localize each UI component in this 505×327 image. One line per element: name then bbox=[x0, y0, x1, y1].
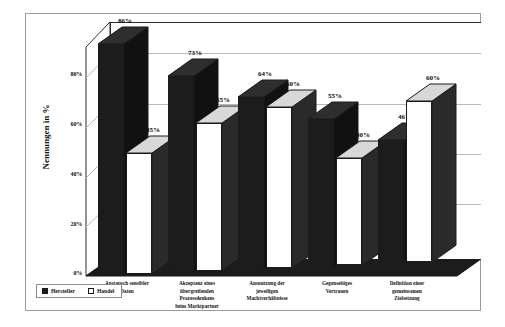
category-label-line: Machtverhältnisse bbox=[230, 295, 304, 303]
bar-value-label-1-hersteller: 86% bbox=[100, 17, 150, 25]
category-label-line: beim Marktpartner bbox=[160, 303, 234, 311]
bar-4-hersteller bbox=[308, 119, 334, 267]
legend-swatch-icon-handel bbox=[88, 288, 94, 294]
category-label-5: Definition einergemeinsamenZielsetzung bbox=[370, 280, 444, 303]
category-label-line: Ausnutzung der bbox=[230, 280, 304, 288]
bar-3d-faces bbox=[406, 84, 458, 264]
chart-screenshot: 80% 60% 40% 20% 0% Nennungen in % 86%45%… bbox=[0, 0, 505, 327]
bar-3-hersteller bbox=[238, 97, 264, 269]
bar-5-hersteller bbox=[378, 140, 404, 264]
legend-swatch-icon-hersteller bbox=[42, 288, 48, 294]
bar-value-label-3-handel: 60% bbox=[268, 80, 318, 88]
chart-legend: Hersteller Handel bbox=[36, 284, 122, 298]
category-label-4: GegenseitigesVertrauen bbox=[300, 280, 374, 295]
bar-value-label-4-hersteller: 55% bbox=[310, 92, 360, 100]
category-label-line: Definition einer bbox=[370, 280, 444, 288]
bar-3-handel bbox=[266, 107, 292, 268]
bar-value-label-2-hersteller: 73% bbox=[170, 49, 220, 57]
bar-value-label-5-handel: 60% bbox=[408, 74, 458, 82]
chart-outer-frame: 80% 60% 40% 20% 0% Nennungen in % 86%45%… bbox=[25, 13, 481, 311]
bar-2-handel bbox=[196, 123, 222, 271]
category-label-2: Akzeptanz einesübergreifendenProzessdenk… bbox=[160, 280, 234, 310]
legend-item-handel[interactable]: Handel bbox=[88, 288, 114, 294]
category-label-line: Akzeptanz eines bbox=[160, 280, 234, 288]
legend-label-hersteller: Hersteller bbox=[51, 288, 75, 294]
bar-2-hersteller bbox=[168, 76, 194, 272]
category-label-line: jeweiligen bbox=[230, 288, 304, 296]
bar-4-handel bbox=[336, 158, 362, 266]
category-label-line: Vertrauen bbox=[300, 288, 374, 296]
category-label-3: Ausnutzung derjeweiligenMachtverhältniss… bbox=[230, 280, 304, 303]
category-label-line: Zielsetzung bbox=[370, 295, 444, 303]
bar-value-label-3-hersteller: 64% bbox=[240, 70, 290, 78]
category-label-line: Gegenseitiges bbox=[300, 280, 374, 288]
bar-5-handel bbox=[406, 101, 432, 262]
bar-1-hersteller bbox=[98, 44, 124, 275]
category-label-line: Prozessdenkens bbox=[160, 295, 234, 303]
category-label-line: übergreifenden bbox=[160, 288, 234, 296]
bar-1-handel bbox=[126, 153, 152, 274]
category-label-line: gemeinsamen bbox=[370, 288, 444, 296]
bars-layer: 86%45%73%55%64%60%55%40%46%60% bbox=[26, 14, 482, 312]
legend-item-hersteller[interactable]: Hersteller bbox=[42, 288, 75, 294]
legend-label-handel: Handel bbox=[97, 288, 114, 294]
